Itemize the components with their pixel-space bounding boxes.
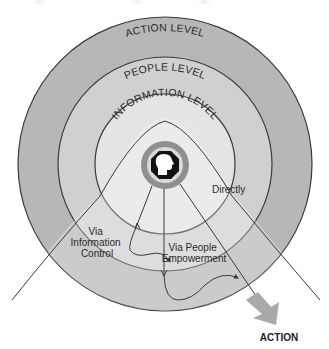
cropped-caption-fragment xyxy=(0,0,329,4)
label-directly: Directly xyxy=(212,184,245,195)
label-action-output: ACTION xyxy=(260,332,298,343)
label-via-people-empowerment: Via People Empowerment xyxy=(162,242,227,264)
diagram-canvas: ACTION LEVEL PEOPLE LEVEL INFORMATION LE… xyxy=(0,0,329,349)
action-output-arrow xyxy=(246,292,279,325)
center-core xyxy=(141,141,189,189)
